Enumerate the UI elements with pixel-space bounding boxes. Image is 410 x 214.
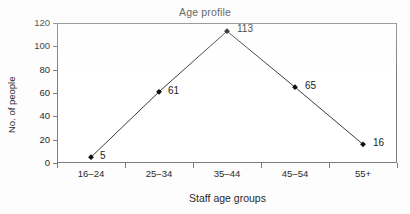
x-axis-category-label: 35–44 [193,168,261,179]
y-axis-tick-label: 80 [16,64,50,75]
age-profile-chart: Age profile No. of people 02040608010012… [0,0,410,214]
y-axis-tick-label: 60 [16,87,50,98]
data-point-value-label: 61 [168,85,179,96]
y-axis-tick-label: 20 [16,134,50,145]
x-axis-title: Staff age groups [57,192,398,204]
x-axis-category-label: 55+ [329,168,397,179]
data-point-value-label: 16 [373,137,384,148]
y-axis-tick-label: 40 [16,110,50,121]
series-polyline [91,31,363,157]
data-point-value-label: 65 [305,80,316,91]
y-axis-tick-label: 120 [16,17,50,28]
y-axis-title-text: No. of people [6,76,17,133]
x-axis-category-label: 16–24 [57,168,125,179]
chart-title: Age profile [0,6,410,18]
x-axis-tick-mark [397,163,398,168]
data-point-value-label: 5 [100,150,106,161]
x-axis-category-label: 25–34 [125,168,193,179]
x-axis-category-label: 45–54 [261,168,329,179]
data-series-line [57,23,397,163]
data-point-value-label: 113 [237,23,253,34]
y-axis-tick-label: 100 [16,40,50,51]
y-axis-tick-label: 0 [16,157,50,168]
